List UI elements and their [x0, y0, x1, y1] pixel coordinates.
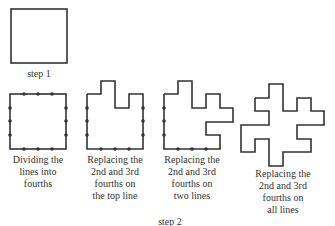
shape-all-replaced	[241, 84, 324, 166]
step1-square	[11, 9, 67, 63]
step1-label: step 1	[11, 68, 67, 80]
shape-two-replaced	[164, 81, 233, 149]
caption-top-replaced: Replacing the 2nd and 3rd fourths on the…	[75, 154, 155, 202]
caption-two-replaced: Replacing the 2nd and 3rd fourths on two…	[152, 154, 232, 202]
shape-top-replaced	[87, 81, 143, 149]
caption-divided: Dividing the lines into fourths	[0, 154, 78, 190]
divided-square	[10, 94, 66, 149]
division-dots	[8, 92, 208, 151]
caption-all-replaced: Replacing the 2nd and 3rd fourths on all…	[243, 168, 323, 216]
step2-label: step 2	[140, 216, 200, 226]
